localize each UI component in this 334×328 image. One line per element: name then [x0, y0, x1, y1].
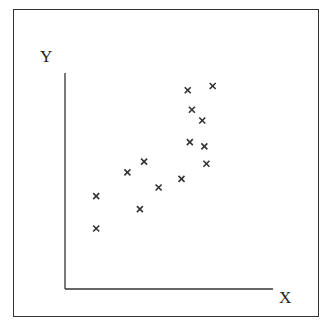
x-marker: [178, 176, 184, 182]
x-marker: [141, 159, 147, 165]
x-marker: [156, 184, 162, 190]
x-marker: [137, 206, 143, 212]
x-marker: [189, 107, 195, 113]
scatter-plot: Y X: [0, 0, 334, 328]
x-marker: [201, 143, 207, 149]
data-points: [93, 83, 215, 232]
x-marker: [124, 169, 130, 175]
x-marker: [210, 83, 216, 89]
x-marker: [185, 87, 191, 93]
x-marker: [199, 118, 205, 124]
x-axis-label: X: [279, 288, 291, 307]
y-axis-label: Y: [40, 47, 52, 66]
x-marker: [203, 161, 209, 167]
x-marker: [187, 139, 193, 145]
x-marker: [93, 226, 99, 232]
x-marker: [93, 193, 99, 199]
